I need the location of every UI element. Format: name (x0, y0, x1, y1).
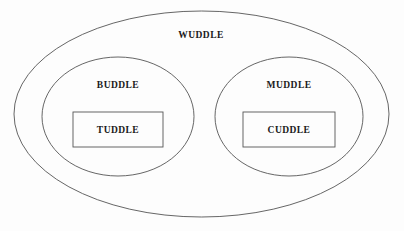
set-diagram: WUDDLE BUDDLE MUDDLE TUDDLE CUDDLE (0, 0, 404, 231)
buddle-label: BUDDLE (97, 80, 139, 90)
cuddle-label: CUDDLE (268, 125, 311, 135)
wuddle-ellipse-outline (14, 11, 389, 217)
tuddle-label: TUDDLE (97, 125, 139, 135)
muddle-ellipse-outline (215, 57, 363, 176)
buddle-ellipse-outline (42, 57, 194, 176)
muddle-label: MUDDLE (267, 80, 312, 90)
wuddle-label: WUDDLE (178, 30, 223, 40)
